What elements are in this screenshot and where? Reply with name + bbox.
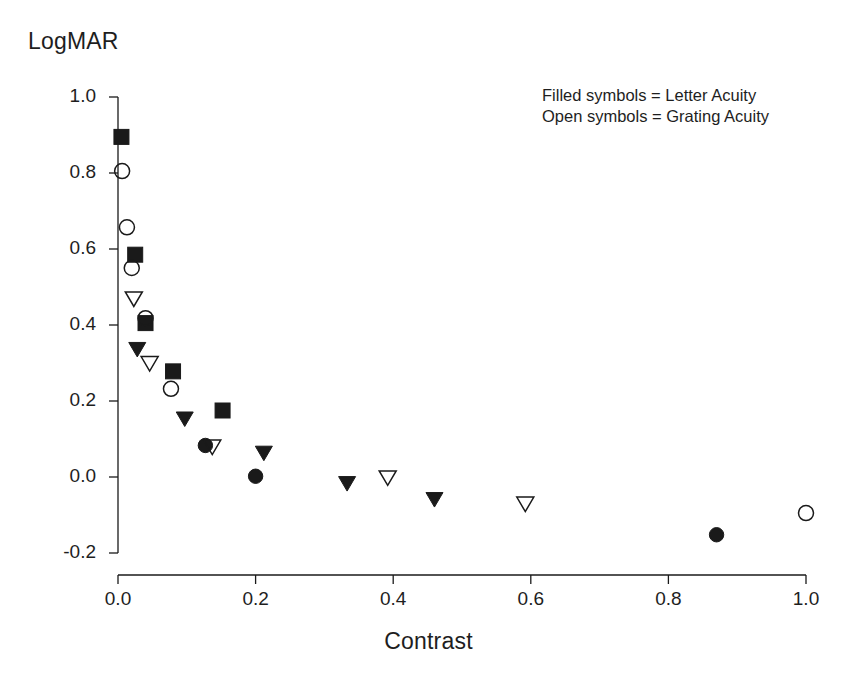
x-axis-title: Contrast	[0, 628, 857, 655]
data-point-filled-circle	[709, 528, 723, 542]
y-tick-label: 0.4	[32, 313, 96, 335]
x-tick-label: 0.4	[358, 588, 428, 610]
x-tick-label: 0.2	[221, 588, 291, 610]
data-point-open-circle	[163, 381, 178, 396]
data-point-open-triangle-down	[379, 471, 396, 486]
x-tick-label: 0.8	[633, 588, 703, 610]
series-filled-circle	[198, 438, 724, 542]
y-tick-label: 0.8	[32, 161, 96, 183]
x-tick-label: 0.6	[496, 588, 566, 610]
data-point-filled-square	[166, 364, 181, 379]
series-open-circle	[115, 164, 814, 521]
y-tick-label: 1.0	[32, 85, 96, 107]
chart-legend: Filled symbols = Letter Acuity Open symb…	[542, 85, 769, 127]
y-tick-label: 0.6	[32, 237, 96, 259]
legend-entry-filled: Filled symbols = Letter Acuity	[542, 85, 769, 106]
x-tick-label: 1.0	[771, 588, 841, 610]
data-point-open-triangle-down	[141, 357, 158, 372]
series-open-triangle-down	[125, 292, 533, 512]
data-point-open-triangle-down	[125, 292, 142, 307]
data-point-filled-square	[128, 247, 143, 262]
data-point-open-circle	[115, 164, 130, 179]
data-point-open-circle	[119, 220, 134, 235]
data-point-filled-square	[215, 403, 230, 418]
data-point-open-circle	[799, 506, 814, 521]
x-tick-label: 0.0	[83, 588, 153, 610]
data-point-filled-triangle-down	[129, 342, 146, 357]
y-tick-label: -0.2	[32, 541, 96, 563]
legend-entry-open: Open symbols = Grating Acuity	[542, 106, 769, 127]
data-point-filled-circle	[248, 469, 262, 483]
y-tick-label: 0.0	[32, 465, 96, 487]
series-filled-square	[114, 129, 230, 418]
data-point-open-circle	[124, 261, 139, 276]
data-point-filled-triangle-down	[339, 477, 356, 492]
y-tick-label: 0.2	[32, 389, 96, 411]
data-point-filled-square	[114, 129, 129, 144]
data-point-open-triangle-down	[517, 497, 534, 512]
data-point-filled-triangle-down	[426, 493, 443, 508]
chart-figure: LogMAR 1.00.80.60.40.20.0-0.20.00.20.40.…	[0, 0, 857, 682]
data-point-filled-triangle-down	[176, 412, 193, 427]
data-point-filled-triangle-down	[255, 446, 272, 461]
